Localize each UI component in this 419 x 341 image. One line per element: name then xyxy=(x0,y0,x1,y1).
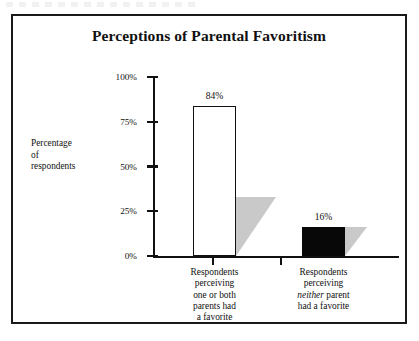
bar-1-value-label: 84% xyxy=(193,90,236,101)
category-caption-1: Respondents perceiving one or both paren… xyxy=(164,267,265,323)
category-1-line-5: a favorite xyxy=(164,312,265,323)
scan-artifact xyxy=(6,2,196,7)
y-tick-label-75: 75% xyxy=(120,117,137,127)
y-tick-mark-50 xyxy=(147,165,158,167)
plot-area: 100% 75% 50% 25% 0% 84% 16% xyxy=(141,63,401,273)
y-tick-mark-25 xyxy=(147,210,158,212)
bar-1-rect[interactable] xyxy=(193,106,236,257)
x-divider-tick-1 xyxy=(212,256,214,265)
y-tick-mark-75 xyxy=(147,121,158,123)
category-1-line-3: one or both xyxy=(164,290,265,301)
bar-2-rect[interactable] xyxy=(302,227,345,256)
chart-title: Perceptions of Parental Favoritism xyxy=(13,27,405,45)
x-divider-tick-2 xyxy=(280,256,282,265)
category-2-line-3: neither parent xyxy=(272,290,375,301)
y-axis-label-line-1: Percentage xyxy=(31,138,117,150)
y-tick-mark-100 xyxy=(147,76,158,78)
y-tick-label-50: 50% xyxy=(120,161,137,171)
category-1-line-1: Respondents xyxy=(164,267,265,278)
y-tick-label-25: 25% xyxy=(120,206,137,216)
category-1-line-2: perceiving xyxy=(164,278,265,289)
y-tick-mark-0 xyxy=(147,255,158,257)
category-2-after-italic: parent xyxy=(324,290,350,300)
category-2-line-1: Respondents xyxy=(272,267,375,278)
category-2-line-2: perceiving xyxy=(272,278,375,289)
bar-2-drop-shadow xyxy=(345,227,367,256)
y-axis-label: Percentage of respondents xyxy=(31,138,117,173)
bar-1-drop-shadow xyxy=(236,197,276,256)
x-axis-line xyxy=(153,256,399,258)
bar-2-value-label: 16% xyxy=(302,211,345,222)
y-tick-label-0: 0% xyxy=(125,251,137,261)
y-axis-label-line-2: of xyxy=(31,150,117,162)
y-tick-label-100: 100% xyxy=(116,72,137,82)
category-2-line-4: had a favorite xyxy=(272,301,375,312)
y-axis-label-line-3: respondents xyxy=(31,161,117,173)
chart-figure-frame: Perceptions of Parental Favoritism Perce… xyxy=(11,14,407,324)
category-caption-2: Respondents perceiving neither parent ha… xyxy=(272,267,375,312)
category-1-line-4: parents had xyxy=(164,301,265,312)
category-2-italic-word: neither xyxy=(297,290,324,300)
